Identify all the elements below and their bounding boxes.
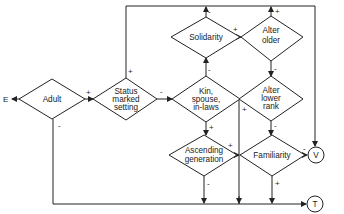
sign-alter-lower-plus: + xyxy=(242,105,247,114)
sign-ascending-minus: - xyxy=(207,179,210,188)
entry-label: E xyxy=(3,95,8,104)
sign-solidarity-minus: - xyxy=(208,7,211,16)
sign-alter-lower-minus: - xyxy=(274,121,277,130)
node-alter-older-label-1: Alter xyxy=(263,26,280,35)
node-kin-label-3: in-laws xyxy=(193,103,218,112)
flowchart-diagram: Adult Status marked setting Kin, spouse,… xyxy=(0,0,344,214)
node-status-label-3: setting xyxy=(114,103,139,112)
node-kin-spouse-in-laws: Kin, spouse, in-laws xyxy=(172,76,240,122)
node-ascending-label-2: generation xyxy=(185,155,224,164)
sign-alter-older-minus: - xyxy=(274,64,277,73)
node-solidarity: Solidarity xyxy=(171,17,240,58)
terminal-t-label: T xyxy=(312,200,317,209)
sign-kin-minus: - xyxy=(208,65,211,74)
sign-alter-older-plus: + xyxy=(275,7,280,16)
node-status-marked-setting: Status marked setting xyxy=(93,78,157,120)
node-alter-older-label-2: older xyxy=(262,36,280,45)
sign-kin-plus: + xyxy=(209,123,214,132)
terminal-v: V xyxy=(308,147,324,163)
node-ascending-generation: Ascending generation xyxy=(169,135,237,176)
sign-solidarity-plus: + xyxy=(233,25,238,34)
sign-familiarity-plus: + xyxy=(275,179,280,188)
node-adult-label: Adult xyxy=(43,95,62,104)
node-familiarity-label: Familiarity xyxy=(253,151,291,160)
node-alter-lower-rank: Alter lower rank xyxy=(239,76,303,121)
node-adult: Adult xyxy=(19,79,85,119)
sign-adult-plus: + xyxy=(86,88,91,97)
sign-status-plus: + xyxy=(128,67,133,76)
sign-familiarity-minus: - xyxy=(303,144,306,153)
node-alter-older: Alter older xyxy=(241,16,303,61)
node-solidarity-label: Solidarity xyxy=(189,33,224,42)
node-ascending-label-1: Ascending xyxy=(185,146,224,155)
terminal-v-label: V xyxy=(313,151,319,160)
node-familiarity: Familiarity xyxy=(240,135,305,176)
sign-ascending-plus: + xyxy=(228,141,233,150)
sign-adult-minus: - xyxy=(58,121,61,130)
node-alter-lower-label-3: rank xyxy=(263,102,280,111)
sign-status-minus: - xyxy=(160,87,163,96)
terminal-t: T xyxy=(307,196,323,212)
